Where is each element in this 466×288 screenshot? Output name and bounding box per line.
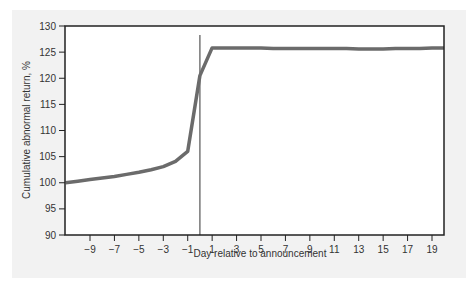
y-tick-label: 125 (39, 47, 56, 58)
y-tick-label: 115 (40, 99, 56, 110)
x-tick-label: −1 (182, 244, 194, 255)
x-tick-label: −9 (84, 244, 96, 255)
y-tick-label: 120 (39, 73, 56, 84)
y-tick-label: 90 (45, 230, 57, 241)
y-tick-label: 100 (39, 177, 56, 188)
x-tick-label: 11 (329, 244, 340, 255)
x-tick-label: −7 (109, 244, 121, 255)
x-axis-title: Day relative to announcement (194, 248, 327, 259)
x-tick-label: −5 (133, 244, 145, 255)
y-axis-title: Cumulative abnormal return, % (21, 61, 32, 199)
y-tick-label: 110 (40, 125, 56, 136)
x-tick-label: 15 (378, 244, 390, 255)
line-chart: 9095100105110115120125130 −9−7−5−3−11357… (0, 0, 466, 288)
x-tick-label: 19 (426, 244, 438, 255)
y-axis: 9095100105110115120125130 (39, 21, 65, 241)
y-tick-label: 95 (45, 203, 57, 214)
x-tick-label: −3 (158, 244, 170, 255)
plot-area (65, 26, 444, 235)
y-tick-label: 105 (39, 151, 56, 162)
x-tick-label: 13 (353, 244, 365, 255)
x-tick-label: 17 (402, 244, 414, 255)
y-tick-label: 130 (39, 21, 56, 32)
